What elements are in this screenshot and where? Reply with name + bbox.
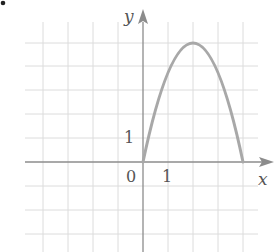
x-axis-label: x [258, 169, 268, 189]
y-tick-label-1: 1 [124, 128, 134, 147]
problem-number-dot [1, 1, 6, 6]
y-axis-label: y [123, 6, 134, 26]
x-tick-label-1: 1 [162, 167, 172, 186]
origin-label: 0 [126, 167, 136, 186]
y-axis-arrow-icon [138, 9, 148, 24]
grid [25, 22, 258, 252]
graph: y x 0 1 1 [0, 0, 278, 252]
